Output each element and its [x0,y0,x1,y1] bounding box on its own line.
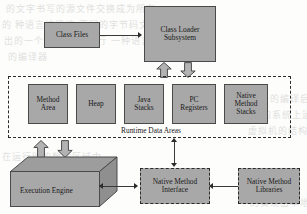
node-heap[interactable]: Heap [76,84,116,124]
nmi-line2: Interface [162,185,188,194]
node-pc-registers[interactable]: PC Registers [172,84,216,124]
background-bleed-text: 的文字书写的源文件交换成为所有 [6,2,156,15]
jvm-architecture-diagram: 的文字书写的源文件交换成为所有 的 种语言编译编 不同的字节码文 出的一个在系统… [0,0,307,214]
arrowhead-left-icon [99,183,103,189]
connector-nmi-to-libraries [210,186,238,187]
node-native-method-libraries-label: Native Method Libraries [246,178,293,195]
node-native-method-libraries[interactable]: Native Method Libraries [238,168,300,204]
node-pc-registers-label: PC Registers [179,96,209,113]
node-class-files-label: Class Files [55,31,89,39]
node-java-stacks[interactable]: Java Stacks [124,84,164,124]
node-native-method-stacks-label: Native Method Stacks [234,92,259,117]
java-stacks-line2: Stacks [134,103,153,112]
node-execution-engine-label: Execution Engine [20,186,73,195]
method-area-line2: Area [41,103,55,112]
arrowhead-left-icon [209,183,213,189]
arrowhead-right-icon [138,32,142,38]
node-native-method-interface-label: Native Method Interface [152,178,199,195]
node-native-method-interface[interactable]: Native Method Interface [140,168,210,204]
native-method-stacks-line3: Stacks [236,107,255,116]
connector-classfiles-to-classloader [100,35,139,36]
node-class-loader-subsystem-label: Class Loader Subsystem [160,26,201,43]
node-heap-label: Heap [87,100,105,108]
arrowhead-down-icon [171,163,177,167]
class-loader-line2: Subsystem [164,33,196,42]
node-native-method-stacks[interactable]: Native Method Stacks [224,84,268,124]
node-class-files[interactable]: Class Files [44,22,100,48]
node-method-area[interactable]: Method Area [28,84,68,124]
node-class-loader-subsystem[interactable]: Class Loader Subsystem [144,6,216,62]
connector-runtime-to-nmi [174,140,175,165]
connector-engine-to-nmi [100,186,136,187]
pc-registers-line2: Registers [180,103,208,112]
arrowhead-right-icon [134,183,138,189]
group-runtime-data-areas-label: Runtime Data Areas [96,126,206,135]
nml-line2: Libraries [256,185,283,194]
arrowhead-up-icon [171,138,177,142]
node-execution-engine[interactable] [10,156,118,208]
node-java-stacks-label: Java Stacks [133,96,154,113]
background-bleed-text: 的编译器 [8,50,48,63]
node-method-area-label: Method Area [36,96,61,113]
